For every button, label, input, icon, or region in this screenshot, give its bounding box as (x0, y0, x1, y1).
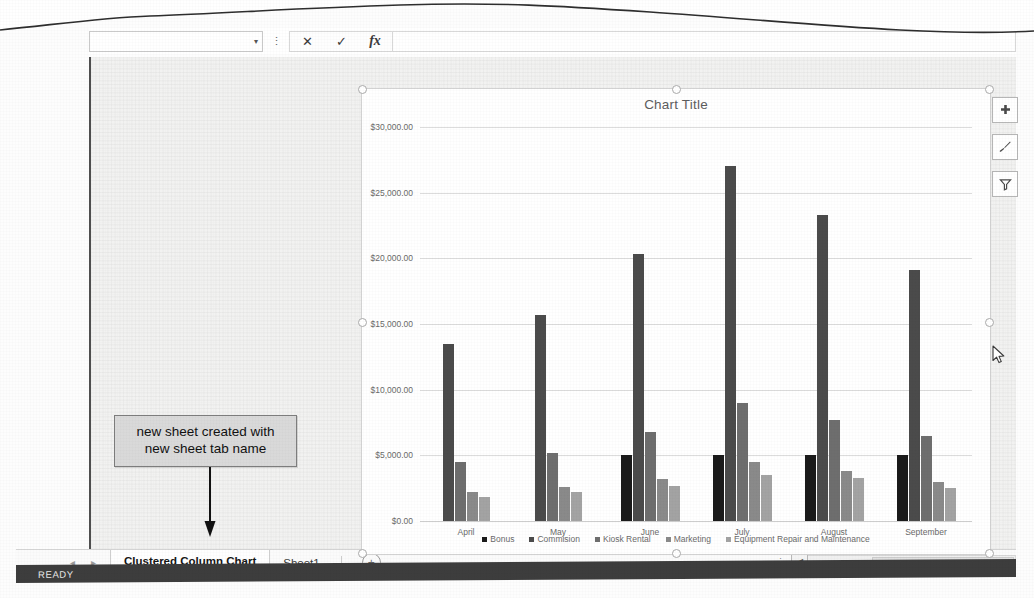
legend-item[interactable]: Bonus (482, 534, 514, 544)
bar[interactable] (817, 215, 828, 521)
bar-cluster[interactable]: May (512, 127, 604, 521)
bar[interactable] (841, 471, 852, 521)
bar[interactable] (713, 455, 724, 521)
bar[interactable] (559, 487, 570, 521)
bar-cluster[interactable]: August (788, 127, 880, 521)
bar[interactable] (921, 436, 932, 521)
annotation-arrow (204, 467, 216, 539)
annotation-line-1: new sheet created with (136, 424, 274, 439)
annotation-text: new sheet created with new sheet tab nam… (136, 424, 274, 458)
bar[interactable] (467, 492, 478, 521)
resize-handle-middle-right[interactable] (985, 318, 994, 327)
bar-cluster[interactable]: September (880, 127, 972, 521)
bar[interactable] (657, 479, 668, 521)
status-text: READY (16, 568, 74, 579)
legend-item[interactable]: Kiosk Rental (595, 534, 651, 544)
chart-styles-button[interactable] (992, 134, 1018, 160)
chart-title[interactable]: Chart Title (362, 97, 990, 112)
legend-label: Marketing (674, 534, 711, 544)
annotation-callout: new sheet created with new sheet tab nam… (114, 415, 297, 467)
bar[interactable] (761, 475, 772, 521)
bar[interactable] (547, 453, 558, 521)
legend-swatch (482, 537, 487, 542)
legend-swatch (666, 537, 671, 542)
resize-handle-middle-left[interactable] (358, 318, 367, 327)
chart-legend[interactable]: BonusCommisionKiosk RentalMarketingEquip… (362, 534, 990, 544)
brush-icon (998, 140, 1012, 154)
bar[interactable] (933, 482, 944, 521)
plus-icon (999, 104, 1012, 117)
bar[interactable] (805, 455, 816, 521)
legend-label: Kiosk Rental (603, 534, 651, 544)
chart-filters-button[interactable] (992, 171, 1018, 197)
legend-swatch (529, 537, 534, 542)
legend-label: Equipment Repair and Maintenance (734, 534, 870, 544)
bar-series-layer: AprilMayJuneJulyAugustSeptember (420, 127, 972, 521)
bar[interactable] (669, 486, 680, 521)
bar[interactable] (829, 420, 840, 521)
legend-item[interactable]: Commision (529, 534, 580, 544)
y-axis-tick-label: $0.00 (392, 516, 420, 526)
chart-elements-button[interactable] (992, 97, 1018, 123)
gridline (420, 521, 972, 522)
bar-cluster[interactable]: April (420, 127, 512, 521)
y-axis-tick-label: $5,000.00 (375, 450, 420, 460)
bar-cluster[interactable]: July (696, 127, 788, 521)
bar[interactable] (621, 455, 632, 521)
resize-handle-bottom-left[interactable] (358, 549, 367, 558)
y-axis-tick-label: $10,000.00 (370, 385, 420, 395)
bar[interactable] (443, 344, 454, 521)
legend-label: Commision (537, 534, 580, 544)
torn-page-edge (0, 0, 1034, 52)
legend-item[interactable]: Equipment Repair and Maintenance (726, 534, 870, 544)
y-axis-tick-label: $30,000.00 (370, 122, 420, 132)
bar[interactable] (725, 166, 736, 521)
resize-handle-top-left[interactable] (358, 85, 367, 94)
legend-swatch (726, 537, 731, 542)
bar[interactable] (571, 492, 582, 521)
resize-handle-bottom-center[interactable] (672, 549, 681, 558)
legend-label: Bonus (490, 534, 514, 544)
mouse-cursor (992, 345, 1006, 365)
chart-side-buttons (992, 97, 1018, 197)
bar-cluster[interactable]: June (604, 127, 696, 521)
bar[interactable] (535, 315, 546, 521)
bar[interactable] (479, 497, 490, 521)
funnel-icon (999, 178, 1012, 191)
y-axis-tick-label: $25,000.00 (370, 188, 420, 198)
excel-window: ▾ ⋮ ✕ ✓ fx Chart Title (16, 28, 1016, 580)
bar[interactable] (945, 488, 956, 521)
annotation-line-2: new sheet tab name (145, 441, 267, 456)
plot-area[interactable]: $0.00$5,000.00$10,000.00$15,000.00$20,00… (420, 127, 972, 521)
bar[interactable] (897, 455, 908, 521)
resize-handle-bottom-right[interactable] (985, 549, 994, 558)
bar[interactable] (749, 462, 760, 521)
bar[interactable] (737, 403, 748, 521)
chart-object[interactable]: Chart Title $0.00$5,000.0 (361, 88, 991, 555)
legend-swatch (595, 537, 600, 542)
bar[interactable] (645, 432, 656, 521)
bar[interactable] (455, 462, 466, 521)
bar[interactable] (633, 254, 644, 521)
resize-handle-top-center[interactable] (672, 85, 681, 94)
y-axis-tick-label: $15,000.00 (370, 319, 420, 329)
resize-handle-top-right[interactable] (985, 85, 994, 94)
bar[interactable] (909, 270, 920, 521)
bar[interactable] (853, 478, 864, 521)
y-axis-tick-label: $20,000.00 (370, 253, 420, 263)
legend-item[interactable]: Marketing (666, 534, 711, 544)
